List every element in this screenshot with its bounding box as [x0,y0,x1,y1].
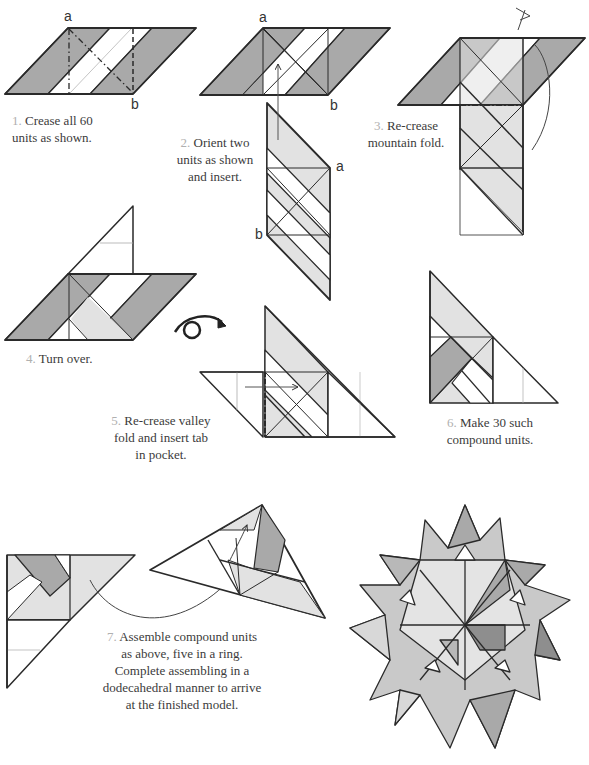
label-b: b [330,97,338,113]
label-b: b [131,96,139,112]
step5-units [200,306,395,437]
turn-over-icon [175,316,226,338]
label-a: a [64,8,72,24]
step4-unit [5,206,196,340]
label-a: a [259,9,267,25]
step3-caption: 3. Re-crease mountain fold. [356,117,456,151]
step2-caption: 2. Orient two units as shown and insert. [160,134,270,185]
step6-caption: 6. Make 30 such compound units. [430,414,550,448]
label-a: a [336,158,344,174]
step1-caption: 1. Crease all 60 units as shown. [12,112,93,146]
finished-model [350,505,570,748]
step5-caption: 5. Re-crease valley fold and insert tab … [96,412,226,463]
step6-compound-unit [430,271,558,403]
label-b: b [255,226,263,242]
step1-unit [5,28,196,94]
step4-caption: 4. Turn over. [26,350,92,367]
step7-caption: 7. Assemble compound units as above, fiv… [82,628,282,713]
